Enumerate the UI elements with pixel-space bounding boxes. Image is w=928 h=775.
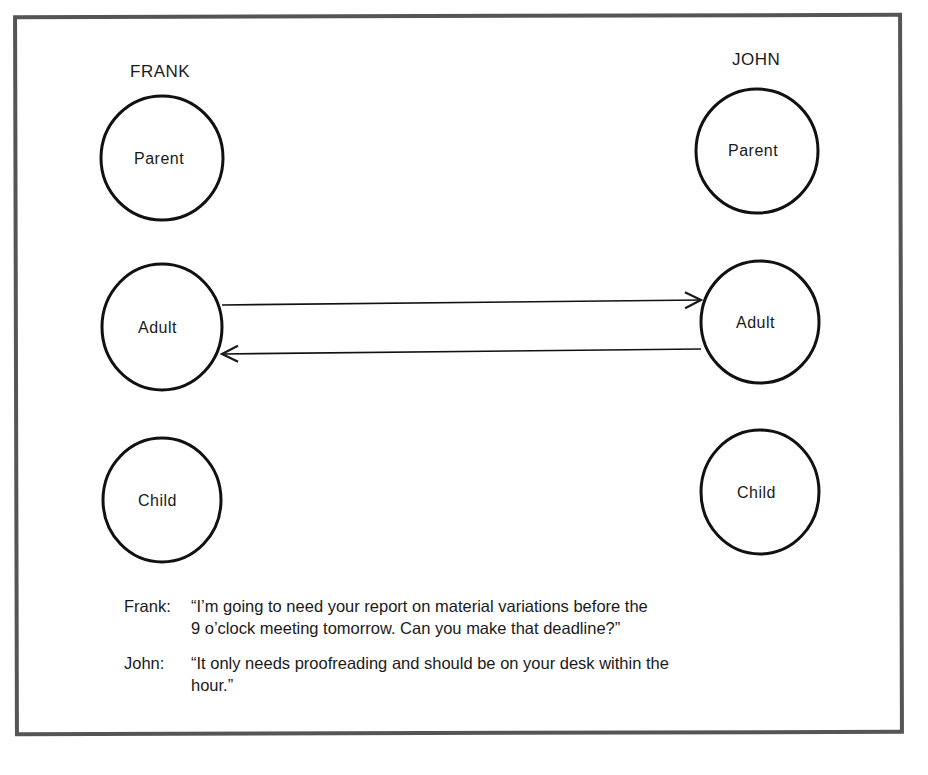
john-label: JOHN bbox=[732, 50, 780, 70]
frank-label: FRANK bbox=[130, 62, 190, 82]
frank-adult-label: Adult bbox=[138, 319, 177, 337]
john-quote-line1: “It only needs proofreading and should b… bbox=[191, 652, 871, 674]
arrow-john-to-frank bbox=[222, 349, 701, 354]
john-parent-label: Parent bbox=[728, 142, 778, 160]
frank-quote-line1: “I’m going to need your report on materi… bbox=[191, 595, 871, 617]
frank-quote-line2: 9 o’clock meeting tomorrow. Can you make… bbox=[191, 617, 871, 639]
frank-parent-label: Parent bbox=[134, 150, 184, 168]
john-adult-label: Adult bbox=[736, 314, 775, 332]
john-quote-line2: hour.” bbox=[191, 674, 871, 696]
arrow-frank-to-john bbox=[222, 300, 701, 305]
john-speaker: John: bbox=[124, 652, 164, 674]
john-child-label: Child bbox=[737, 484, 776, 502]
frank-speaker: Frank: bbox=[124, 595, 171, 617]
frank-child-label: Child bbox=[138, 492, 177, 510]
